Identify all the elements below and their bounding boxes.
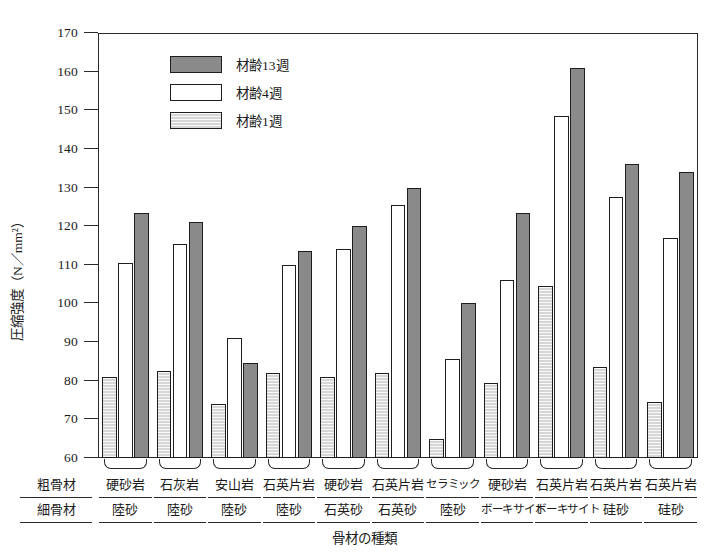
bar-w13 bbox=[407, 188, 422, 458]
y-tick: 90 bbox=[84, 341, 98, 342]
bar-w1 bbox=[157, 371, 172, 458]
bar-w4 bbox=[118, 263, 133, 458]
fine-aggregate-label: 石英砂 bbox=[372, 497, 425, 523]
fine-aggregate-label: 陸砂 bbox=[263, 497, 316, 523]
y-tick-label: 110 bbox=[58, 257, 78, 273]
coarse-aggregate-label: 安山岩 bbox=[208, 472, 261, 498]
bar-w13 bbox=[298, 251, 313, 458]
fine-aggregate-label: 硅砂 bbox=[644, 497, 697, 523]
legend-swatch-4week bbox=[170, 84, 222, 101]
y-tick-label: 60 bbox=[64, 450, 78, 466]
y-tick-label: 170 bbox=[57, 25, 78, 41]
y-tick-label: 130 bbox=[57, 179, 78, 195]
bar-group bbox=[98, 33, 153, 458]
bar-w1 bbox=[211, 404, 226, 458]
bar-w1 bbox=[266, 373, 281, 458]
bar-group bbox=[425, 33, 480, 458]
y-tick: 120 bbox=[84, 225, 98, 226]
fine-aggregate-label: 陸砂 bbox=[426, 497, 479, 523]
bar-w1 bbox=[320, 377, 335, 458]
fine-aggregate-label: 硅砂 bbox=[590, 497, 643, 523]
coarse-aggregate-label: 石英片岩 bbox=[372, 472, 425, 498]
bar-group bbox=[643, 33, 698, 458]
row-header-coarse: 粗骨材 bbox=[20, 472, 92, 498]
bar-w4 bbox=[663, 238, 678, 458]
y-tick-label: 70 bbox=[64, 411, 78, 427]
bar-group bbox=[316, 33, 371, 458]
y-tick: 80 bbox=[84, 380, 98, 381]
y-tick: 70 bbox=[84, 418, 98, 419]
y-tick-label: 140 bbox=[57, 141, 78, 157]
bar-w13 bbox=[570, 68, 585, 458]
coarse-aggregate-label: 硬砂岩 bbox=[99, 472, 152, 498]
legend-label-4week: 材齢4週 bbox=[236, 82, 282, 102]
fine-aggregate-label: ボーキサイト bbox=[481, 497, 534, 523]
y-tick: 110 bbox=[84, 264, 98, 265]
bar-w1 bbox=[593, 367, 608, 458]
legend-label-13week: 材齢13週 bbox=[236, 54, 289, 74]
bar-w4 bbox=[173, 244, 188, 458]
bar-w1 bbox=[484, 383, 499, 458]
bar-group bbox=[480, 33, 535, 458]
y-axis-title: 圧縮強度（N／mm²） bbox=[6, 215, 26, 341]
bar-group bbox=[371, 33, 426, 458]
bar-w4 bbox=[391, 205, 406, 458]
category-brace bbox=[213, 459, 256, 469]
y-tick-label: 150 bbox=[57, 102, 78, 118]
category-brace bbox=[431, 459, 474, 469]
y-tick-label: 90 bbox=[64, 334, 78, 350]
y-tick: 100 bbox=[84, 302, 98, 303]
coarse-aggregate-label: 硬砂岩 bbox=[481, 472, 534, 498]
y-tick: 140 bbox=[84, 148, 98, 149]
coarse-aggregate-label: 硬砂岩 bbox=[317, 472, 370, 498]
coarse-aggregate-label: 石灰岩 bbox=[154, 472, 207, 498]
category-brace bbox=[649, 459, 692, 469]
category-brace bbox=[595, 459, 638, 469]
y-tick: 160 bbox=[84, 71, 98, 72]
coarse-aggregate-label: 石英片岩 bbox=[644, 472, 697, 498]
coarse-aggregate-row: 粗骨材 硬砂岩石灰岩安山岩石英片岩硬砂岩石英片岩セラミック硬砂岩石英片岩石英片岩… bbox=[20, 472, 710, 497]
bar-w13 bbox=[243, 363, 258, 458]
y-tick: 60 bbox=[84, 457, 98, 458]
bar-w4 bbox=[500, 280, 515, 458]
coarse-aggregate-label: 石英片岩 bbox=[590, 472, 643, 498]
bar-group bbox=[589, 33, 644, 458]
bar-w13 bbox=[461, 303, 476, 458]
category-brace bbox=[377, 459, 420, 469]
bar-w4 bbox=[609, 197, 624, 458]
bar-w4 bbox=[445, 359, 460, 458]
category-brace bbox=[486, 459, 529, 469]
y-tick-label: 100 bbox=[57, 295, 78, 311]
bar-w1 bbox=[375, 373, 390, 458]
legend-swatch-1week bbox=[170, 112, 222, 129]
bar-w13 bbox=[134, 213, 149, 458]
bar-w13 bbox=[679, 172, 694, 458]
legend-label-1week: 材齢1週 bbox=[236, 110, 282, 130]
legend: 材齢13週 材齢4週 材齢1週 bbox=[170, 50, 289, 134]
y-tick: 130 bbox=[84, 187, 98, 188]
bar-w1 bbox=[538, 286, 553, 458]
fine-aggregate-row: 細骨材 陸砂陸砂陸砂陸砂石英砂石英砂陸砂ボーキサイトボーキサイト硅砂硅砂 bbox=[20, 497, 710, 522]
bar-group bbox=[534, 33, 589, 458]
bar-w13 bbox=[516, 213, 531, 458]
y-tick-label: 80 bbox=[64, 372, 78, 388]
bar-w4 bbox=[282, 265, 297, 458]
legend-swatch-13week bbox=[170, 56, 222, 73]
fine-aggregate-label: 陸砂 bbox=[154, 497, 207, 523]
chart-root: 圧縮強度（N／mm²） 6070809010011012013014015016… bbox=[0, 0, 728, 556]
bar-w13 bbox=[189, 222, 204, 458]
category-brace bbox=[268, 459, 311, 469]
category-brace bbox=[540, 459, 583, 469]
legend-item: 材齢1週 bbox=[170, 106, 289, 134]
coarse-aggregate-label: 石英片岩 bbox=[535, 472, 588, 498]
category-brace bbox=[322, 459, 365, 469]
bar-w4 bbox=[336, 249, 351, 458]
bar-w1 bbox=[647, 402, 662, 458]
bar-w4 bbox=[554, 116, 569, 458]
coarse-aggregate-label: セラミック bbox=[426, 472, 479, 498]
x-axis-category-table: 粗骨材 硬砂岩石灰岩安山岩石英片岩硬砂岩石英片岩セラミック硬砂岩石英片岩石英片岩… bbox=[20, 472, 710, 522]
bar-w13 bbox=[352, 226, 367, 458]
legend-item: 材齢4週 bbox=[170, 78, 289, 106]
legend-item: 材齢13週 bbox=[170, 50, 289, 78]
y-tick-label: 120 bbox=[57, 218, 78, 234]
